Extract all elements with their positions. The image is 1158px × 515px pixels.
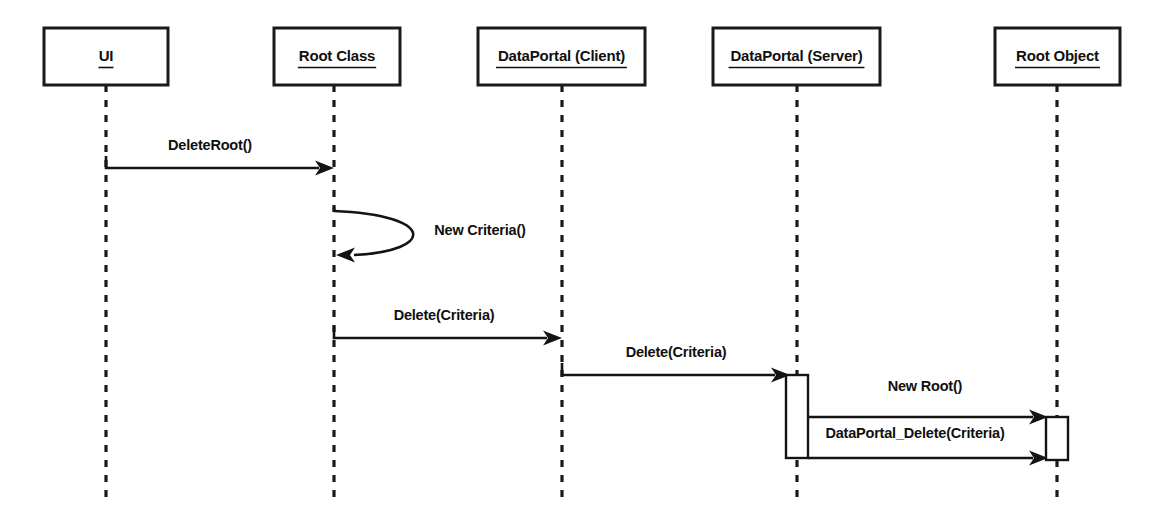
participant-label-ui: UI [99, 47, 114, 64]
activation-root-object[interactable] [1046, 417, 1068, 460]
activation-dataportal-server[interactable] [786, 375, 808, 458]
message-label-msg-dataportal-delete: DataPortal_Delete(Criteria) [825, 425, 1005, 441]
message-msg-deleteroot[interactable] [106, 156, 334, 176]
message-label-msg-delete-criteria-client: Delete(Criteria) [394, 307, 495, 323]
message-label-msg-new-root: New Root() [888, 378, 963, 394]
participant-dataportal-server[interactable]: DataPortal (Server) [713, 28, 880, 85]
message-path-msg-deleteroot [106, 156, 319, 168]
participant-label-root-object: Root Object [1016, 47, 1099, 64]
messages-layer [106, 156, 1048, 466]
participant-dataportal-client[interactable]: DataPortal (Client) [478, 28, 645, 85]
message-labels-layer: DeleteRoot()New Criteria()Delete(Criteri… [168, 137, 1005, 441]
message-label-msg-delete-criteria-server: Delete(Criteria) [626, 344, 727, 360]
participant-label-dataportal-client: DataPortal (Client) [498, 47, 625, 64]
arrowhead-msg-new-criteria [336, 248, 355, 263]
participant-boxes-layer: UIRoot ClassDataPortal (Client)DataPorta… [44, 28, 1120, 85]
message-msg-new-root[interactable] [808, 410, 1048, 425]
participant-label-root-class: Root Class [299, 47, 375, 64]
message-msg-delete-criteria-server[interactable] [562, 363, 790, 383]
uml-sequence-diagram: UIRoot ClassDataPortal (Client)DataPorta… [0, 0, 1158, 515]
sequence-diagram-canvas: UIRoot ClassDataPortal (Client)DataPorta… [0, 0, 1158, 515]
participant-root-class[interactable]: Root Class [274, 28, 400, 85]
message-label-msg-new-criteria: New Criteria() [434, 222, 526, 238]
message-label-msg-deleteroot: DeleteRoot() [168, 137, 252, 153]
participant-root-object[interactable]: Root Object [995, 28, 1120, 85]
message-path-msg-new-criteria [334, 211, 413, 255]
message-msg-delete-criteria-client[interactable] [334, 326, 562, 346]
participant-ui[interactable]: UI [44, 28, 168, 85]
message-msg-dataportal-delete[interactable] [808, 451, 1048, 466]
message-path-msg-delete-criteria-client [334, 326, 547, 338]
participant-label-dataportal-server: DataPortal (Server) [730, 47, 862, 64]
message-path-msg-delete-criteria-server [562, 363, 775, 375]
message-msg-new-criteria[interactable] [334, 207, 413, 263]
